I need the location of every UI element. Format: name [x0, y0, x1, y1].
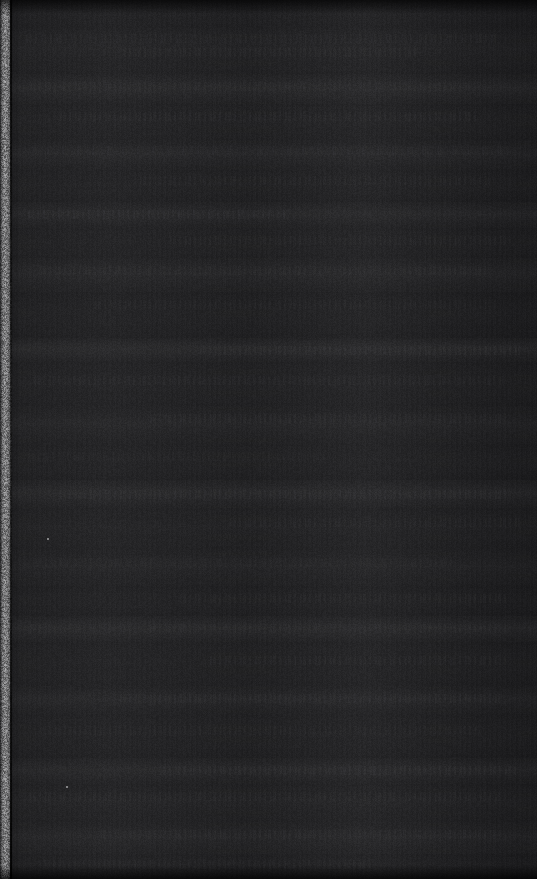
- dark-scan-canvas: Near-black frame with a noisy light vert…: [0, 0, 537, 879]
- top-edge-shading: [0, 0, 537, 14]
- bright-speck: [47, 538, 49, 540]
- bright-speck: [66, 786, 68, 788]
- left-margin-strip-edge: [10, 0, 12, 879]
- vertical-streak-overlay: [0, 0, 537, 879]
- bottom-edge-shading: [0, 865, 537, 879]
